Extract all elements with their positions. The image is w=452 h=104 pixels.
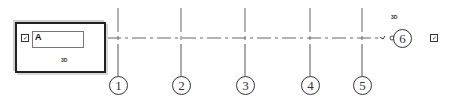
grid-bubble-3[interactable]: 3 — [236, 76, 255, 95]
drawing-canvas: ✓ A 3D 1 2 3 4 5 6 3D ✓ — [0, 0, 452, 104]
right-3d-tag: 3D — [391, 14, 397, 20]
view-3d-tag: 3D — [61, 57, 67, 63]
grid-bubble-1[interactable]: 1 — [109, 76, 128, 95]
grid-bubble-2[interactable]: 2 — [172, 76, 191, 95]
break-marker-icon — [380, 36, 385, 39]
grid-bubble-5[interactable]: 5 — [353, 76, 372, 95]
checkbox-icon-right[interactable]: ✓ — [430, 34, 438, 42]
checkbox-icon[interactable]: ✓ — [21, 34, 29, 42]
elevation-bubble-6[interactable]: 6 — [393, 29, 412, 48]
view-label: A — [35, 32, 42, 42]
grid-bubble-4[interactable]: 4 — [301, 76, 320, 95]
